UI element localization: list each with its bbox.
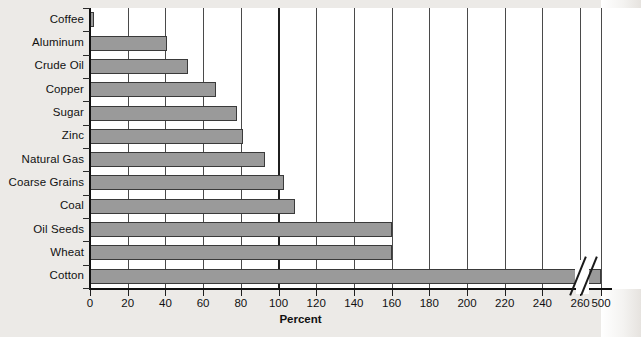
x-axis-tick-label-200: 200: [457, 297, 476, 309]
x-axis-tick-label-260: 260: [571, 297, 590, 309]
x-axis-tick-100: [279, 290, 280, 296]
bar-sugar: [90, 106, 237, 121]
x-axis-tick-label-100: 100: [269, 297, 288, 309]
bar-coarse-grains: [90, 175, 284, 190]
y-axis-label-oil-seeds: Oil Seeds: [0, 223, 84, 235]
y-axis-label-coffee: Coffee: [0, 13, 84, 25]
gridline-260: [580, 8, 581, 289]
x-axis-tick-label-80: 80: [234, 297, 247, 309]
x-axis-tick-label-180: 180: [420, 297, 439, 309]
bar-aluminum: [90, 36, 167, 51]
x-axis-tick-label-40: 40: [159, 297, 172, 309]
bar-wheat: [90, 245, 392, 260]
gridline-180: [429, 8, 430, 289]
y-axis-tick: [83, 195, 90, 196]
bar-coal: [90, 199, 295, 214]
x-axis-tick-0: [90, 290, 91, 296]
bar-cotton: [90, 269, 575, 284]
y-axis-label-copper: Copper: [0, 83, 84, 95]
x-axis-tick-140: [354, 290, 355, 296]
y-axis-label-coarse-grains: Coarse Grains: [0, 176, 84, 188]
bar-oil-seeds: [90, 222, 392, 237]
x-axis-tick-label-140: 140: [344, 297, 363, 309]
x-axis-tick-220: [505, 290, 506, 296]
bar-natural-gas: [90, 152, 265, 167]
x-axis-tick-200: [467, 290, 468, 296]
y-axis-tick: [83, 265, 90, 266]
bar-chart: CoffeeAluminumCrude OilCopperSugarZincNa…: [0, 0, 641, 337]
x-axis-tick-40: [165, 290, 166, 296]
x-axis-tick-label-20: 20: [121, 297, 134, 309]
bar-crude-oil: [90, 59, 188, 74]
plot-panel-right-extension: [601, 8, 641, 289]
y-axis-label-zinc: Zinc: [0, 129, 84, 141]
x-axis-tick-20: [128, 290, 129, 296]
y-axis-tick: [83, 31, 90, 32]
bar-zinc: [90, 129, 243, 144]
y-axis-tick: [83, 125, 90, 126]
gridline-220: [505, 8, 506, 289]
x-axis-tick-180: [429, 290, 430, 296]
x-axis-tick-label-120: 120: [307, 297, 326, 309]
y-axis-label-wheat: Wheat: [0, 246, 84, 258]
x-axis-title: Percent: [0, 313, 641, 325]
x-axis-title-text: Percent: [279, 313, 321, 325]
y-axis-label-aluminum: Aluminum: [0, 36, 84, 48]
y-axis-tick: [83, 288, 90, 289]
y-axis-tick: [83, 171, 90, 172]
y-axis-tick: [83, 148, 90, 149]
y-axis-tick: [83, 78, 90, 79]
y-axis-label-crude-oil: Crude Oil: [0, 59, 84, 71]
x-axis-tick-label-0: 0: [87, 297, 93, 309]
y-axis-tick: [83, 241, 90, 242]
y-axis-tick: [83, 101, 90, 102]
y-axis-category-labels: CoffeeAluminumCrude OilCopperSugarZincNa…: [0, 0, 84, 337]
x-axis-tick-label-160: 160: [382, 297, 401, 309]
x-axis-line: [89, 288, 612, 290]
y-axis-label-natural-gas: Natural Gas: [0, 153, 84, 165]
y-axis-label-sugar: Sugar: [0, 106, 84, 118]
x-axis-tick-240: [542, 290, 543, 296]
x-axis-tick-160: [392, 290, 393, 296]
x-axis-tick-60: [203, 290, 204, 296]
x-axis-tick-label-220: 220: [495, 297, 514, 309]
x-axis-tick-80: [241, 290, 242, 296]
gridline-240: [542, 8, 543, 289]
y-axis-label-coal: Coal: [0, 199, 84, 211]
y-axis-tick: [83, 218, 90, 219]
x-axis-tick-label-500: 500: [591, 297, 610, 309]
x-axis-tick-label-240: 240: [533, 297, 552, 309]
y-axis-tick: [83, 55, 90, 56]
x-axis-tick-120: [316, 290, 317, 296]
y-axis-label-cotton: Cotton: [0, 269, 84, 281]
gridline-160: [392, 8, 393, 289]
x-axis-tick-label-60: 60: [197, 297, 210, 309]
x-axis-tick-500: [601, 290, 602, 296]
bar-copper: [90, 82, 216, 97]
gridline-500: [601, 8, 602, 289]
gridline-200: [467, 8, 468, 289]
y-axis-tick: [83, 8, 90, 9]
